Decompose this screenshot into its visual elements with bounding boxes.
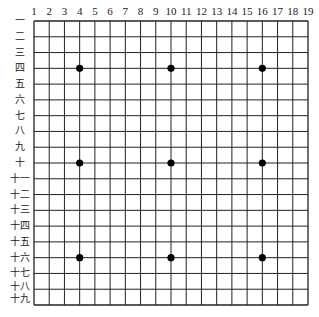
row-label: 三 [8,48,32,58]
row-label: 八 [8,126,32,136]
row-label: 十六 [8,253,32,263]
column-label: 10 [166,5,177,17]
row-label: 五 [8,79,32,89]
star-point-icon [259,159,266,166]
row-label: 十七 [8,268,32,278]
row-label: 六 [8,95,32,105]
row-label: 七 [8,111,32,121]
star-point-icon [167,159,174,166]
row-label: 一 [8,16,32,26]
column-label: 15 [242,5,253,17]
column-label: 3 [62,5,68,17]
column-label: 18 [287,5,298,17]
column-label: 9 [153,5,159,17]
star-point-icon [76,254,83,261]
column-label: 5 [92,5,98,17]
row-label: 十八 [8,282,32,292]
star-point-icon [76,65,83,72]
row-label: 四 [8,63,32,73]
column-label: 13 [211,5,222,17]
star-point-icon [167,65,174,72]
row-label: 十四 [8,221,32,231]
row-label: 二 [8,32,32,42]
column-label: 11 [181,5,192,17]
column-label: 16 [257,5,268,17]
star-point-icon [259,254,266,261]
row-label: 十三 [8,205,32,215]
column-label: 17 [272,5,283,17]
column-label: 4 [77,5,83,17]
row-label: 十二 [8,190,32,200]
row-label: 九 [8,142,32,152]
column-label: 7 [123,5,129,17]
row-label: 十九 [8,294,32,304]
go-board: 12345678910111213141516171819 一二三四五六七八九十… [0,0,319,317]
row-label: 十一 [8,174,32,184]
star-point-icon [167,254,174,261]
row-label: 十五 [8,237,32,247]
column-label: 1 [31,5,37,17]
column-label: 14 [226,5,237,17]
column-label: 6 [107,5,113,17]
column-label: 19 [303,5,314,17]
star-point-icon [76,159,83,166]
board-grid [0,0,319,317]
column-label: 12 [196,5,207,17]
column-label: 8 [138,5,144,17]
column-label: 2 [46,5,52,17]
star-point-icon [259,65,266,72]
row-label: 十 [8,158,32,168]
